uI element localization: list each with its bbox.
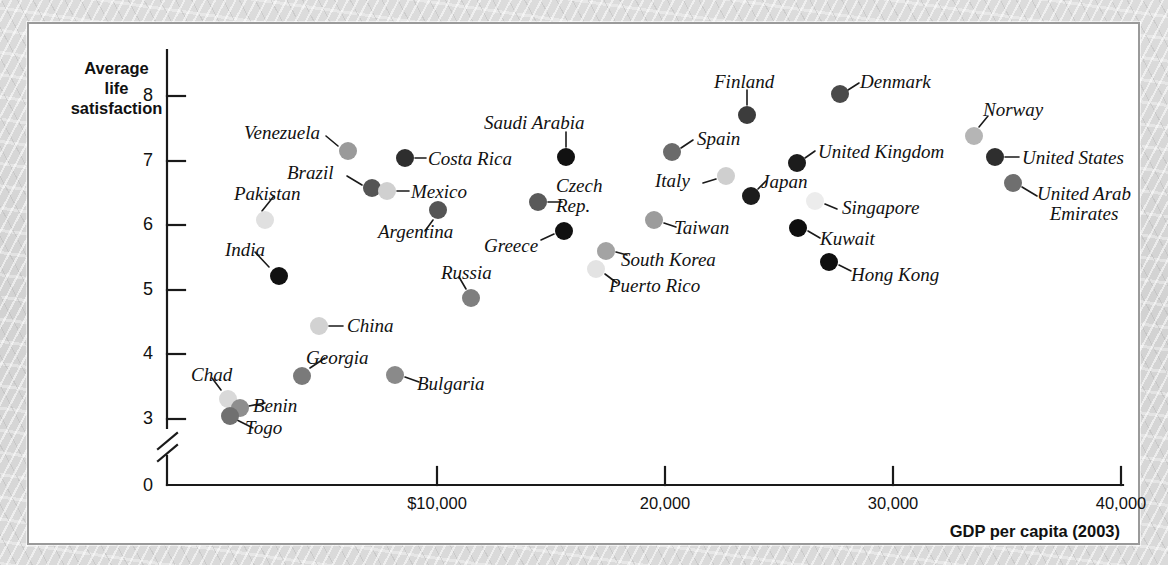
- leader-line: [825, 204, 837, 209]
- data-point[interactable]: [256, 211, 274, 229]
- point-label: Greece: [484, 236, 538, 256]
- point-label: China: [347, 316, 393, 336]
- point-label: Italy: [655, 171, 690, 191]
- data-point[interactable]: [663, 143, 681, 161]
- x-tick-label-20000: 20,000: [615, 494, 715, 513]
- y-tick-label-4: 4: [127, 343, 153, 364]
- point-label: Togo: [245, 418, 282, 438]
- data-point[interactable]: [788, 154, 806, 172]
- point-label-line-2: Rep.: [556, 196, 602, 216]
- point-label: Argentina: [378, 222, 453, 242]
- point-label: Pakistan: [234, 184, 301, 204]
- axes-and-leaders: [29, 24, 1142, 547]
- data-point[interactable]: [555, 222, 573, 240]
- data-point[interactable]: [587, 260, 605, 278]
- point-label: Japan: [761, 172, 807, 192]
- data-point[interactable]: [717, 167, 735, 185]
- y-axis-title-line-3: satisfaction: [59, 98, 174, 118]
- leader-line: [839, 265, 851, 271]
- y-tick-label-7: 7: [127, 150, 153, 171]
- point-label: Kuwait: [820, 229, 875, 249]
- point-label: CzechRep.: [556, 176, 602, 216]
- y-tick-label-3: 3: [127, 408, 153, 429]
- data-point[interactable]: [386, 366, 404, 384]
- data-point[interactable]: [270, 267, 288, 285]
- axis-break-slash-2: [158, 445, 177, 461]
- point-label: Russia: [441, 263, 492, 283]
- leader-line: [848, 83, 859, 90]
- y-tick-label-6: 6: [127, 214, 153, 235]
- point-label: Benin: [253, 396, 297, 416]
- scatter-plot: Average life satisfaction: [29, 24, 1138, 543]
- leader-line: [805, 151, 815, 158]
- leader-line: [326, 136, 338, 146]
- leader-line: [703, 179, 716, 183]
- point-label: Venezuela: [244, 123, 320, 143]
- data-point[interactable]: [429, 201, 447, 219]
- point-label: Denmark: [860, 72, 931, 92]
- point-label-line-2: Emirates: [1037, 204, 1131, 224]
- point-label: Saudi Arabia: [484, 113, 584, 133]
- x-tick-label-10000: $10,000: [387, 494, 487, 513]
- data-point[interactable]: [557, 148, 575, 166]
- x-tick-label-40000: 40,000: [1071, 494, 1168, 513]
- leader-line: [808, 231, 820, 238]
- axis-break-slash-1: [158, 433, 177, 449]
- data-point[interactable]: [806, 192, 824, 210]
- point-label: India: [225, 240, 265, 260]
- point-label: South Korea: [621, 250, 716, 270]
- point-label: Georgia: [306, 348, 369, 368]
- y-tick-label-8: 8: [127, 85, 153, 106]
- point-label: Chad: [191, 365, 232, 385]
- point-label: Costa Rica: [428, 149, 512, 169]
- x-tick-label-30000: 30,000: [843, 494, 943, 513]
- point-label: Hong Kong: [851, 265, 939, 285]
- data-point[interactable]: [645, 211, 663, 229]
- point-label: United States: [1022, 148, 1124, 168]
- data-point[interactable]: [310, 317, 328, 335]
- y-tick-label-0: 0: [127, 475, 153, 496]
- y-tick-label-5: 5: [127, 279, 153, 300]
- data-point[interactable]: [831, 85, 849, 103]
- x-axis-title: GDP per capita (2003): [950, 522, 1120, 541]
- data-point[interactable]: [738, 106, 756, 124]
- data-point[interactable]: [1004, 174, 1022, 192]
- point-label: Bulgaria: [417, 374, 485, 394]
- point-label: Brazil: [287, 163, 333, 183]
- data-point[interactable]: [986, 148, 1004, 166]
- y-axis-title-line-1: Average: [59, 58, 174, 78]
- data-point[interactable]: [339, 142, 357, 160]
- leader-line: [1022, 187, 1037, 196]
- leader-line: [541, 234, 554, 240]
- data-point[interactable]: [462, 289, 480, 307]
- data-point[interactable]: [597, 242, 615, 260]
- chart-panel: Average life satisfaction: [27, 22, 1140, 545]
- point-label: United Kingdom: [818, 142, 944, 162]
- y-axis-title-line-2: life: [59, 78, 174, 98]
- data-point[interactable]: [965, 127, 983, 145]
- point-label: Spain: [697, 129, 740, 149]
- point-label: Finland: [714, 72, 774, 92]
- point-label: United ArabEmirates: [1037, 184, 1131, 224]
- y-axis-title: Average life satisfaction: [59, 58, 174, 118]
- data-point[interactable]: [529, 193, 547, 211]
- point-label-line-1: Czech: [556, 176, 602, 196]
- point-label: Puerto Rico: [609, 276, 700, 296]
- point-label: Mexico: [411, 182, 467, 202]
- point-label-line-1: United Arab: [1037, 184, 1131, 204]
- data-point[interactable]: [378, 182, 396, 200]
- leader-line: [347, 176, 362, 185]
- point-label: Taiwan: [674, 218, 729, 238]
- data-point[interactable]: [396, 149, 414, 167]
- data-point[interactable]: [221, 407, 239, 425]
- data-point[interactable]: [293, 367, 311, 385]
- data-point[interactable]: [742, 187, 760, 205]
- data-point[interactable]: [789, 219, 807, 237]
- point-label: Singapore: [842, 198, 919, 218]
- data-point[interactable]: [820, 253, 838, 271]
- leader-line: [681, 140, 693, 148]
- point-label: Norway: [983, 100, 1043, 120]
